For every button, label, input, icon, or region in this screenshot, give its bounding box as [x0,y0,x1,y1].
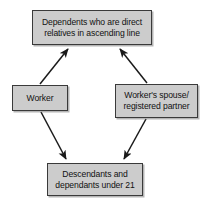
node-worker-spouse-registered-partner: Worker's spouse/ registered partner [115,84,198,118]
node-label: Worker's spouse/ registered partner [120,90,192,112]
arrow-spouse-to-descendants [124,119,146,159]
node-label: Worker [24,93,57,104]
arrow-worker-to-descendants [41,112,66,159]
node-label: Descendants and dependants under 21 [52,169,137,191]
node-label: Dependents who are direct relatives in a… [39,17,145,39]
arrow-spouse-to-ascending [120,49,147,83]
relationship-diagram: Dependents who are direct relatives in a… [0,0,209,204]
node-descendants-dependants-under-21: Descendants and dependants under 21 [47,163,143,196]
node-worker: Worker [12,85,68,111]
arrow-worker-to-ascending [40,49,68,84]
node-dependents-ascending-line: Dependents who are direct relatives in a… [32,10,152,45]
